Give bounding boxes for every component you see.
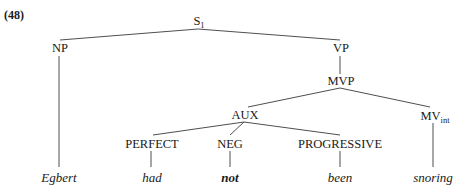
tree-edges	[0, 0, 467, 193]
node-label: MV	[420, 109, 440, 123]
node-label: S	[193, 14, 200, 28]
terminal-had: had	[142, 171, 162, 184]
node-mvp: MVP	[327, 75, 354, 88]
node-subscript: 1	[200, 20, 204, 30]
node-subscript: int	[441, 115, 450, 125]
node-perfect: PERFECT	[125, 138, 179, 151]
node-np: NP	[52, 42, 68, 55]
node-mv-int: MVint	[420, 110, 449, 123]
node-neg: NEG	[217, 138, 243, 151]
example-number: (48)	[4, 8, 24, 23]
terminal-egbert: Egbert	[41, 171, 76, 184]
terminal-snoring: snoring	[413, 171, 453, 184]
node-s1: S1	[193, 15, 204, 28]
node-aux: AUX	[231, 109, 258, 122]
node-vp: VP	[333, 42, 349, 55]
node-progressive: PROGRESSIVE	[298, 138, 382, 151]
terminal-been: been	[328, 171, 353, 184]
terminal-not: not	[221, 171, 238, 184]
